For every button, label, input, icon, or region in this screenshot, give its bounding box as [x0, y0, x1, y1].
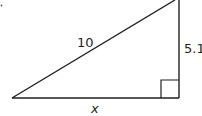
- right-triangle-diagram: 10 5.1 x: [0, 0, 202, 116]
- horizontal-leg-label: x: [90, 101, 99, 116]
- hypotenuse-label: 10: [77, 35, 94, 50]
- right-angle-marker: [161, 80, 179, 98]
- stray-dot: [1, 5, 3, 7]
- vertical-leg-label: 5.1: [184, 41, 202, 56]
